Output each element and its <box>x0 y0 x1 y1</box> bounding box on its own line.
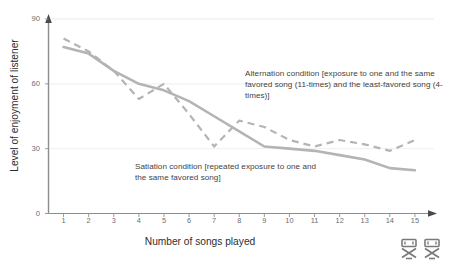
chart-container: Alternation condition [exposure to one a… <box>0 0 451 267</box>
x-tick-label: 8 <box>230 216 248 225</box>
x-tick-label: 5 <box>155 216 173 225</box>
x-tick-label: 11 <box>306 216 324 225</box>
series-line-satiation <box>64 47 415 170</box>
annotation-alternation-condition: Alternation condition [exposure to one a… <box>245 68 445 102</box>
watermark-icon <box>422 238 442 260</box>
x-tick-label: 4 <box>130 216 148 225</box>
y-tick-label: 0 <box>20 209 40 218</box>
x-tick-label: 14 <box>381 216 399 225</box>
x-axis-arrowhead <box>428 210 437 216</box>
y-tick-label: 30 <box>20 144 40 153</box>
line-chart-plot <box>0 0 451 267</box>
x-tick-label: 13 <box>356 216 374 225</box>
x-axis-title: Number of songs played <box>0 236 400 247</box>
annotation-satiation-condition: Satiation condition [repeated exposure t… <box>135 161 325 183</box>
x-tick-label: 6 <box>180 216 198 225</box>
x-tick-label: 1 <box>55 216 73 225</box>
x-tick-label: 9 <box>255 216 273 225</box>
x-tick-label: 15 <box>406 216 424 225</box>
watermark-icon <box>399 238 419 260</box>
x-tick-label: 7 <box>205 216 223 225</box>
y-axis-title: Level of enjoyment of listener <box>9 6 20 206</box>
x-tick-label: 10 <box>280 216 298 225</box>
x-tick-label: 3 <box>105 216 123 225</box>
axes <box>45 14 437 217</box>
x-tick-label: 2 <box>80 216 98 225</box>
x-tick-label: 12 <box>331 216 349 225</box>
y-tick-label: 90 <box>20 14 40 23</box>
watermark-glyphs <box>399 236 449 262</box>
y-tick-label: 60 <box>20 79 40 88</box>
